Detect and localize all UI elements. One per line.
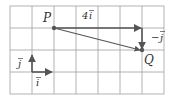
label-j: j: [16, 58, 23, 69]
svg-text:4: 4: [81, 10, 88, 21]
label-P: P: [42, 11, 52, 25]
point-P: [52, 26, 56, 30]
svg-text:−: −: [151, 32, 159, 43]
vector-PQ: [54, 28, 140, 50]
label-i: i: [36, 77, 41, 88]
point-Q: [140, 48, 144, 52]
svg-text:j: j: [16, 58, 21, 69]
label-Q: Q: [144, 53, 154, 67]
svg-text:i: i: [89, 10, 92, 21]
label-minus-j: − j: [151, 32, 165, 44]
label-4i: 4 i: [81, 10, 94, 21]
svg-text:i: i: [36, 77, 39, 88]
vector-grid-diagram: P Q 4 i − j j i: [0, 0, 179, 103]
